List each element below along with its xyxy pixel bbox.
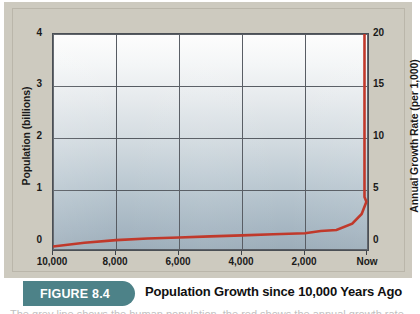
x-tick-mark-4000 (241, 251, 242, 255)
x-tick-label-10000: 10,000 (22, 256, 82, 267)
x-tick-label-2000: 2,000 (274, 256, 334, 267)
x-tick-label-8000: 8,000 (85, 256, 145, 267)
y2-tick-label-10: 10 (373, 130, 395, 141)
series-line-world-population (53, 34, 368, 251)
y-tick-label-2: 2 (22, 130, 42, 141)
y-tick-label-4: 4 (22, 27, 42, 38)
x-tick-mark-2000 (304, 251, 305, 255)
y2-tick-label-15: 15 (373, 78, 395, 89)
page-body-text-sliver: The grey line shows the human population… (10, 308, 406, 314)
x-tick-label-4000: 4,000 (211, 256, 271, 267)
y2-tick-label-20: 20 (373, 27, 395, 38)
x-tick-mark-8000 (115, 251, 116, 255)
figure-number-badge: FIGURE 8.4 (23, 281, 135, 306)
y2-tick-label-0: 0 (373, 234, 395, 245)
y-axis-title-right: Annual Growth Rate (per 1,000) (408, 21, 420, 251)
x-tick-label-now: Now (337, 256, 397, 267)
figure-caption-bar: FIGURE 8.4 Population Growth since 10,00… (4, 281, 412, 307)
figure-plate: Population (billions) Annual Growth Rate… (4, 2, 412, 278)
x-tick-mark-now (366, 251, 367, 255)
y2-tick-label-5: 5 (373, 182, 395, 193)
x-tick-label-6000: 6,000 (148, 256, 208, 267)
x-tick-mark-6000 (178, 251, 179, 255)
plot-area (52, 33, 369, 251)
figure-caption-text: Population Growth since 10,000 Years Ago (145, 284, 402, 299)
x-tick-mark-10000 (52, 251, 53, 255)
y-tick-label-0: 0 (22, 234, 42, 245)
y-tick-label-1: 1 (22, 182, 42, 193)
y-tick-label-3: 3 (22, 78, 42, 89)
